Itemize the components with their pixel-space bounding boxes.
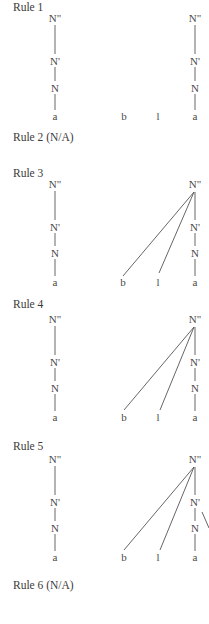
leaf-a: a [193, 276, 198, 288]
rule-5-left-tree: N" N' N a [49, 453, 61, 563]
node-n: N [191, 382, 199, 394]
leaf-l: l [156, 551, 159, 563]
leaf-a: a [53, 110, 58, 122]
node-n-bar: N' [190, 221, 200, 233]
node-n-double-bar: N" [49, 178, 61, 190]
leaf-b: b [120, 276, 126, 288]
extra-branch [202, 512, 209, 528]
node-n: N [191, 247, 199, 259]
node-n: N [51, 247, 59, 259]
rule-3-right-tree: N" N' N b l a [120, 178, 201, 288]
node-n-bar: N' [50, 55, 60, 67]
node-n: N [191, 522, 199, 534]
node-n-bar: N' [190, 55, 200, 67]
leaf-a: a [53, 276, 58, 288]
node-n: N [191, 82, 199, 94]
node-n-bar: N' [50, 356, 60, 368]
node-n: N [51, 522, 59, 534]
leaf-l: l [156, 411, 159, 423]
node-n-bar: N' [190, 496, 200, 508]
rule-3-left-tree: N" N' N a [49, 178, 61, 288]
node-n-double-bar: N" [49, 313, 61, 325]
leaf-a: a [53, 411, 58, 423]
rule-4-left-tree: N" N' N a [49, 313, 61, 423]
leaf-a: a [193, 551, 198, 563]
node-n-double-bar: N" [49, 12, 61, 24]
rule-5-right-tree: N" N' N b l a [121, 453, 209, 563]
leaf-b: b [121, 110, 127, 122]
leaf-a: a [53, 551, 58, 563]
node-n-double-bar: N" [189, 453, 201, 465]
node-n: N [51, 382, 59, 394]
leaf-l: l [156, 110, 159, 122]
leaf-b: b [121, 551, 127, 563]
node-n-double-bar: N" [49, 453, 61, 465]
node-n-bar: N' [190, 356, 200, 368]
node-n-double-bar: N" [189, 313, 201, 325]
node-n-bar: N' [50, 496, 60, 508]
node-n-double-bar: N" [189, 178, 201, 190]
rule-4-right-tree: N" N' N b l a [121, 313, 201, 423]
rule-1-left-tree: N" N' N a [49, 12, 61, 122]
node-n-bar: N' [50, 221, 60, 233]
tree-diagrams: N" N' N a b l N" N' N a N" N' N a N" N' … [0, 0, 209, 624]
rule-1-right-tree: b l N" N' N a [121, 12, 201, 122]
leaf-a: a [193, 411, 198, 423]
node-n: N [51, 82, 59, 94]
leaf-l: l [156, 276, 159, 288]
node-n-double-bar: N" [189, 12, 201, 24]
leaf-b: b [121, 411, 127, 423]
leaf-a: a [193, 110, 198, 122]
